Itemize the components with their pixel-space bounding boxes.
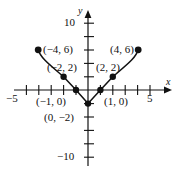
point-marker-0-neg2 [85,100,91,106]
point-label-2-2: (2, 2) [96,62,120,73]
point-marker-1-0 [97,87,103,93]
point-marker-4-6 [135,46,142,53]
x-tick-label-minus-5: −5 [6,93,18,104]
point-marker-neg1-0 [73,87,79,93]
y-axis-name: y [78,6,82,16]
x-tick-label-5: 5 [147,93,153,104]
x-axis-name: x [166,77,170,87]
y-tick-label-10: 10 [64,17,75,28]
y-axis [85,10,92,166]
point-label-4-6: (4, 6) [110,44,134,55]
coordinate-plane-svg [0,0,177,171]
point-label-neg2-2: (−2, 2) [47,62,77,73]
graph-figure: x y −5 5 10 −10 (−4, 6) (−2, 2) (−1, 0) … [0,0,177,171]
point-marker-neg4-6 [35,46,42,53]
point-label-1-0: (1, 0) [104,96,128,107]
point-label-neg1-0: (−1, 0) [36,96,66,107]
point-marker-neg2-2 [60,74,66,80]
point-label-neg4-6: (−4, 6) [43,44,73,55]
y-tick-label-minus-10: −10 [57,151,74,162]
point-label-0-neg2: (0, −2) [44,112,74,123]
point-marker-2-2 [110,74,116,80]
